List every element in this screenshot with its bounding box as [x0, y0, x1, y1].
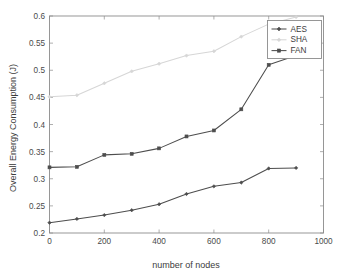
data-point-marker [130, 152, 133, 155]
data-point-marker [103, 82, 106, 85]
data-point-marker [157, 203, 160, 206]
data-point-marker [48, 221, 51, 224]
data-point-marker [103, 213, 106, 216]
y-tick-label: 0.35 [29, 148, 45, 157]
data-point-marker [130, 209, 133, 212]
y-tick-label: 0.4 [34, 121, 46, 130]
data-point-marker [277, 49, 280, 52]
y-tick-label: 0.3 [34, 175, 46, 184]
series-layer [48, 15, 298, 224]
y-tick-label: 0.5 [34, 66, 46, 75]
data-point-marker [185, 192, 188, 195]
data-point-marker [267, 63, 270, 66]
series-line-aes [50, 168, 297, 223]
data-point-marker [185, 135, 188, 138]
y-tick-label: 0.6 [34, 12, 46, 21]
y-axis-label: Overall Energy Consumption (J) [8, 64, 18, 192]
y-tick-label: 0.45 [29, 93, 45, 102]
data-point-marker [75, 94, 78, 97]
x-axis-label: number of nodes [152, 260, 220, 270]
x-tick-label: 200 [97, 237, 111, 246]
x-tick-label: 1000 [314, 237, 333, 246]
data-point-marker [130, 70, 133, 73]
data-point-marker [48, 95, 51, 98]
x-tick-label: 0 [47, 237, 52, 246]
data-point-marker [212, 129, 215, 132]
series-fan [48, 54, 298, 169]
legend-label-sha: SHA [291, 35, 308, 44]
data-point-marker [294, 166, 297, 169]
line-chart: 0.20.250.30.350.40.450.50.550.6 02004006… [0, 0, 345, 277]
data-point-marker [75, 165, 78, 168]
x-tick-label: 600 [207, 237, 221, 246]
data-point-marker [75, 217, 78, 220]
data-point-marker [158, 147, 161, 150]
x-tick-label: 400 [152, 237, 166, 246]
y-tick-label: 0.55 [29, 39, 45, 48]
data-point-marker [212, 185, 215, 188]
legend-label-aes: AES [291, 25, 308, 34]
x-tick-label: 800 [262, 237, 276, 246]
data-point-marker [48, 166, 51, 169]
series-line-sha [50, 17, 297, 97]
series-line-fan [50, 56, 297, 168]
y-tick-label: 0.2 [34, 229, 46, 238]
y-tick-label: 0.25 [29, 202, 45, 211]
data-point-marker [103, 153, 106, 156]
chart-figure: 0.20.250.30.350.40.450.50.550.6 02004006… [0, 0, 345, 277]
data-point-marker [240, 108, 243, 111]
series-aes [48, 166, 298, 224]
data-point-marker [185, 54, 188, 57]
series-sha [48, 15, 298, 98]
chart-legend[interactable]: AESSHAFAN [268, 21, 322, 59]
legend-label-fan: FAN [291, 46, 307, 55]
data-point-marker [157, 62, 160, 65]
